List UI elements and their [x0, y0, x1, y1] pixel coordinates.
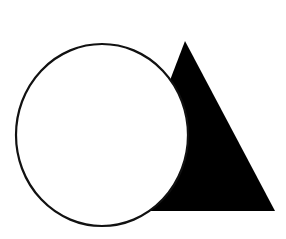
diagram-canvas — [0, 0, 286, 239]
circle-shape — [16, 44, 188, 226]
